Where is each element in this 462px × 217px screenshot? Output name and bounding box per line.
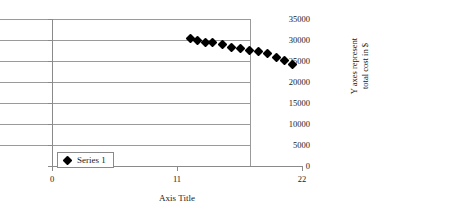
chart-legend[interactable]: Series 1 <box>57 152 114 168</box>
gridline-5000 <box>0 145 250 146</box>
y-tick-mark-35000 <box>48 19 53 20</box>
y-tick-mark-20000 <box>48 82 53 83</box>
x-tick-mark-0 <box>52 166 53 171</box>
chart-screenshot: 35000 30000 25000 20000 15000 10000 5000… <box>0 0 462 217</box>
y-tick-label-15000: 15000 <box>264 99 310 108</box>
y-axis-explanation-label: Y axes represent total cost in $ <box>349 11 371 121</box>
data-point[interactable] <box>217 40 227 50</box>
x-tick-label-0: 0 <box>37 174 67 184</box>
y-tick-mark-30000 <box>48 40 53 41</box>
plot-right-edge <box>250 19 251 166</box>
y-tick-label-35000: 35000 <box>264 15 310 24</box>
y-tick-mark-5000 <box>48 145 53 146</box>
gridline-25000 <box>0 61 250 62</box>
data-point[interactable] <box>244 45 254 55</box>
y-tick-label-10000: 10000 <box>264 120 310 129</box>
x-tick-label-11: 11 <box>162 174 192 184</box>
y-tick-label-0: 0 <box>264 162 310 171</box>
data-point[interactable] <box>235 44 245 54</box>
gridline-20000 <box>0 82 250 83</box>
gridline-35000 <box>0 19 250 20</box>
y-tick-mark-15000 <box>48 103 53 104</box>
gridline-10000 <box>0 124 250 125</box>
y-tick-label-20000: 20000 <box>264 78 310 87</box>
y-axis-explanation-line-2: total cost in $ <box>360 11 371 121</box>
x-tick-mark-22 <box>302 166 303 171</box>
y-tick-mark-10000 <box>48 124 53 125</box>
scatter-chart: 35000 30000 25000 20000 15000 10000 5000… <box>0 0 310 217</box>
y-axis-explanation-line-1: Y axes represent <box>349 11 360 121</box>
gridline-15000 <box>0 103 250 104</box>
y-tick-label-5000: 5000 <box>264 141 310 150</box>
axis-explanation-diagram: Y axes represent total cost in $ X axes … <box>310 0 462 217</box>
x-tick-mark-11 <box>177 166 178 171</box>
diamond-marker-icon <box>63 155 73 165</box>
x-axis-title: Axis Title <box>92 193 262 203</box>
y-tick-mark-25000 <box>48 61 53 62</box>
legend-item-label: Series 1 <box>77 155 106 165</box>
data-point[interactable] <box>253 47 263 57</box>
y-tick-label-30000: 30000 <box>264 36 310 45</box>
